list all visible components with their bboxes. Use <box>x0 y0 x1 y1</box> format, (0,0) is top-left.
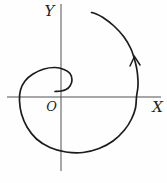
figure-canvas: Y X O <box>0 0 167 183</box>
x-axis-label: X <box>151 98 164 116</box>
spiral-curve <box>19 13 138 153</box>
origin-label: O <box>46 99 57 114</box>
y-axis-label: Y <box>45 2 57 20</box>
spiral-coordinate-figure: Y X O <box>0 0 167 183</box>
